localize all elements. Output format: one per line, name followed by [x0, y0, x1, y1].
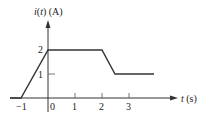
x-tick-label-3: 3 [126, 101, 131, 112]
y-axis-arrow-icon [46, 20, 51, 28]
x-axis-arrow-icon [170, 96, 178, 101]
x-tick-label-neg1: −1 [16, 101, 27, 112]
x-tick-label-2: 2 [99, 101, 104, 112]
x-ticks [75, 93, 129, 98]
x-tick-label-1: 1 [72, 101, 77, 112]
x-tick-label-0: 0 [50, 101, 55, 112]
x-axis-label: t (s) [181, 93, 197, 105]
waveform-line [10, 50, 154, 98]
waveform-chart: −1 0 1 2 3 1 2 i(t) (A) t (s) [0, 0, 207, 127]
y-tick-label-1: 1 [38, 69, 43, 80]
y-axis-label: i(t) (A) [34, 6, 63, 18]
y-tick-label-2: 2 [38, 44, 43, 55]
